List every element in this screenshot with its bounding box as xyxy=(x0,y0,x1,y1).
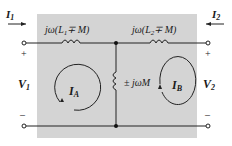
v2-plus: + xyxy=(205,48,211,59)
v1-plus: + xyxy=(21,48,27,59)
terminal-left-bottom xyxy=(22,124,26,128)
current-i1-label: I1 xyxy=(5,8,14,22)
current-i2-label: I2 xyxy=(211,8,220,22)
terminal-right-top xyxy=(206,41,210,45)
voltage-v1-label: V1 xyxy=(18,77,30,92)
circuit-diagram: I1 I2 jω(L1∓ M) jω(L2∓ M) ± jωM + – + – … xyxy=(0,0,232,146)
voltage-v2-label: V2 xyxy=(203,77,215,92)
terminal-left-top xyxy=(22,41,26,45)
v2-minus: – xyxy=(204,109,211,120)
v1-minus: – xyxy=(19,109,26,120)
arrowhead-right-icon xyxy=(206,22,211,26)
node-bottom xyxy=(114,124,118,128)
node-top xyxy=(114,41,118,45)
terminal-right-bottom xyxy=(206,124,210,128)
inductor-shunt-label: ± jωM xyxy=(124,77,151,88)
arrowhead-left-icon xyxy=(21,22,26,26)
